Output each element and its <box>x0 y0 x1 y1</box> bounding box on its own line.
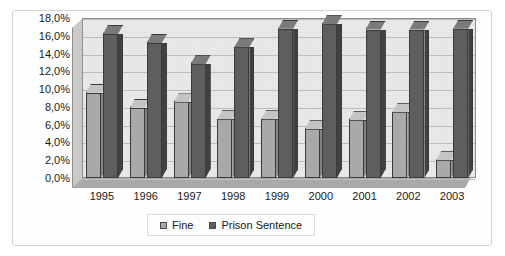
bar-side <box>118 34 123 178</box>
legend-item-fine: Fine <box>160 219 193 231</box>
bar-face <box>191 64 206 178</box>
bar-face <box>174 102 189 178</box>
y-axis-tick-label: 12,0% <box>12 65 70 77</box>
bar-side <box>206 64 211 178</box>
bar-group <box>432 18 476 188</box>
x-axis-tick-label: 2003 <box>440 190 464 202</box>
bar-face <box>436 160 451 178</box>
bar-prison-sentence-1997 <box>191 64 206 178</box>
bar-face <box>234 47 249 178</box>
y-axis-tick-label: 4,0% <box>12 136 70 148</box>
bar-group <box>213 18 257 188</box>
bar-face <box>147 43 162 178</box>
y-axis-tick-label: 6,0% <box>12 119 70 131</box>
bar-fine-1996 <box>130 108 145 178</box>
bar-fine-1999 <box>261 119 276 178</box>
chart-legend: FinePrison Sentence <box>147 214 315 236</box>
y-axis-tick-label: 14,0% <box>12 48 70 60</box>
bars-layer <box>72 18 476 188</box>
bar-face <box>261 119 276 178</box>
bar-group <box>345 18 389 188</box>
y-axis-tick-label: 2,0% <box>12 154 70 166</box>
bar-group <box>170 18 214 188</box>
bar-prison-sentence-1999 <box>278 29 293 178</box>
bar-face <box>453 29 468 178</box>
bar-face <box>392 112 407 178</box>
bar-side <box>249 47 254 178</box>
bar-face <box>278 29 293 178</box>
bar-side <box>293 29 298 178</box>
bar-fine-2002 <box>392 112 407 178</box>
bar-fine-1995 <box>86 93 101 178</box>
bar-face <box>305 129 320 178</box>
bar-side <box>381 30 386 178</box>
bar-group <box>126 18 170 188</box>
x-axis-tick-label: 2001 <box>352 190 376 202</box>
x-axis-tick-label: 1998 <box>221 190 245 202</box>
bar-group <box>82 18 126 188</box>
bar-fine-2000 <box>305 129 320 178</box>
plot-area <box>72 18 476 188</box>
bar-face <box>409 30 424 178</box>
bar-fine-1997 <box>174 102 189 178</box>
bar-prison-sentence-2000 <box>322 24 337 178</box>
y-axis-labels: 18,0%16,0%14,0%12,0%10,0%8,0%6,0%4,0%2,0… <box>12 18 70 188</box>
x-axis-tick-label: 1996 <box>133 190 157 202</box>
x-axis-tick-label: 1999 <box>265 190 289 202</box>
bar-face <box>103 34 118 178</box>
bar-group <box>301 18 345 188</box>
bar-fine-2003 <box>436 160 451 178</box>
bar-face <box>366 30 381 178</box>
bar-group <box>388 18 432 188</box>
y-axis-tick-label: 8,0% <box>12 101 70 113</box>
bar-prison-sentence-2001 <box>366 30 381 178</box>
legend-label: Fine <box>172 219 193 231</box>
legend-item-prison: Prison Sentence <box>209 219 302 231</box>
x-axis-tick-label: 1995 <box>90 190 114 202</box>
x-axis-tick-label: 2002 <box>396 190 420 202</box>
bar-side <box>337 24 342 178</box>
bar-prison-sentence-2002 <box>409 30 424 178</box>
bar-face <box>130 108 145 178</box>
bar-prison-sentence-2003 <box>453 29 468 178</box>
y-axis-tick-label: 18,0% <box>12 12 70 24</box>
x-axis-tick-label: 1997 <box>177 190 201 202</box>
bar-group <box>257 18 301 188</box>
bar-side <box>162 43 167 178</box>
legend-swatch-icon <box>209 222 216 229</box>
bar-side <box>424 30 429 178</box>
bar-prison-sentence-1996 <box>147 43 162 178</box>
legend-label: Prison Sentence <box>221 219 302 231</box>
bar-face <box>86 93 101 178</box>
legend-swatch-icon <box>160 222 167 229</box>
y-axis-tick-label: 16,0% <box>12 30 70 42</box>
x-axis-tick-label: 2000 <box>309 190 333 202</box>
bar-face <box>217 119 232 178</box>
bar-chart-figure: 18,0%16,0%14,0%12,0%10,0%8,0%6,0%4,0%2,0… <box>0 0 505 256</box>
y-axis-tick-label: 0,0% <box>12 172 70 184</box>
bar-prison-sentence-1998 <box>234 47 249 178</box>
bar-prison-sentence-1995 <box>103 34 118 178</box>
bar-face <box>349 120 364 178</box>
x-axis-labels: 199519961997199819992000200120022003 <box>72 190 476 208</box>
bar-fine-1998 <box>217 119 232 178</box>
y-axis-tick-label: 10,0% <box>12 83 70 95</box>
bar-face <box>322 24 337 178</box>
bar-fine-2001 <box>349 120 364 178</box>
bar-side <box>468 29 473 178</box>
